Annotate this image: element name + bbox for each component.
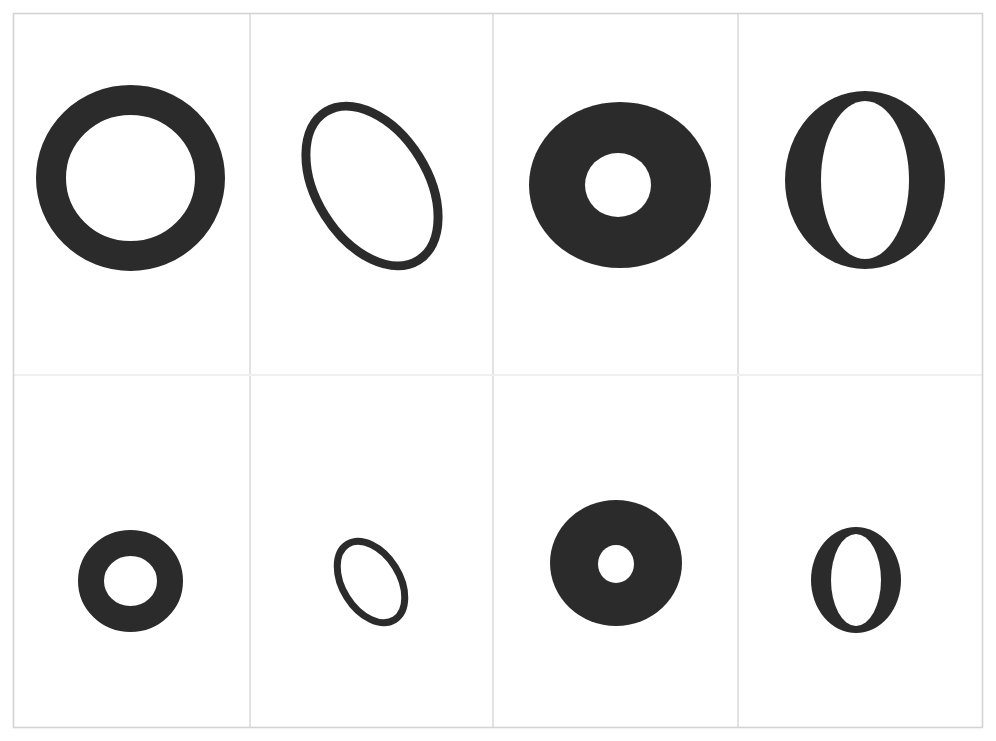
shape-grid-svg [0,0,996,741]
shape-layer [0,0,996,741]
shape-grid-canvas [0,0,996,741]
shape-typographic-letter-o-small[interactable] [0,0,996,741]
